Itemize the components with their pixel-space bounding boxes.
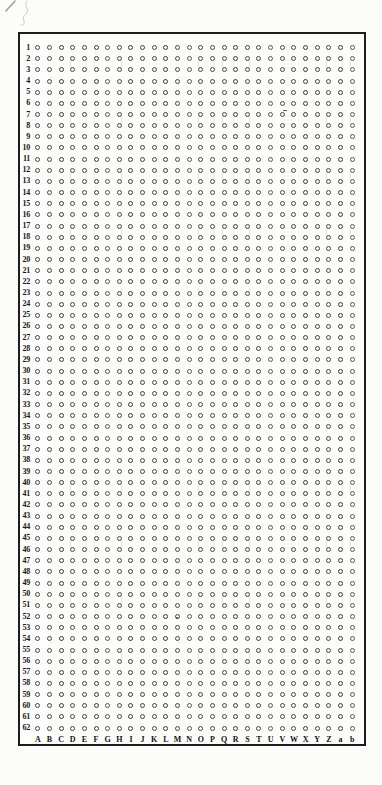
grid-dot [140, 636, 145, 641]
dot-cell [32, 525, 44, 530]
dot-row [32, 179, 358, 184]
dot-cell [346, 246, 358, 251]
dot-cell [113, 313, 125, 318]
dot-cell [160, 625, 172, 630]
grid-dot [128, 168, 133, 173]
dot-cell [90, 346, 102, 351]
grid-row: 51 [20, 600, 364, 611]
dot-cell [125, 391, 137, 396]
grid-dot [47, 246, 52, 251]
grid-dot [291, 391, 296, 396]
grid-dot [82, 469, 87, 474]
grid-dot [291, 302, 296, 307]
grid-dot [245, 67, 250, 72]
grid-dot [233, 313, 238, 318]
dot-cell [253, 246, 265, 251]
grid-dot [128, 636, 133, 641]
dot-cell [230, 491, 242, 496]
grid-dot [303, 369, 308, 374]
grid-dot [47, 391, 52, 396]
grid-dot [280, 134, 285, 139]
grid-dot [128, 558, 133, 563]
dot-cell [323, 157, 335, 162]
dot-cell [230, 558, 242, 563]
dot-cell [160, 67, 172, 72]
grid-dot [268, 346, 273, 351]
grid-dot [35, 726, 40, 731]
grid-dot [128, 346, 133, 351]
grid-dot [315, 369, 320, 374]
grid-dot [245, 592, 250, 597]
grid-dot [140, 335, 145, 340]
dot-cell [67, 480, 79, 485]
dot-cell [172, 436, 184, 441]
dot-cell [276, 458, 288, 463]
dot-cell [218, 246, 230, 251]
dot-cell [311, 480, 323, 485]
grid-dot [128, 246, 133, 251]
grid-dot [163, 558, 168, 563]
grid-dot [94, 581, 99, 586]
dot-cell [207, 469, 219, 474]
dot-cell [183, 145, 195, 150]
dot-cell [207, 703, 219, 708]
dot-cell [67, 424, 79, 429]
dot-cell [346, 168, 358, 173]
grid-dot [326, 681, 331, 686]
dot-cell [148, 603, 160, 608]
dot-cell [148, 212, 160, 217]
dot-cell [160, 703, 172, 708]
grid-dot [326, 726, 331, 731]
grid-dot [268, 291, 273, 296]
dot-cell [335, 714, 347, 719]
grid-dot [222, 268, 227, 273]
grid-dot [315, 581, 320, 586]
grid-dot [350, 145, 355, 150]
grid-dot [163, 313, 168, 318]
grid-dot [326, 145, 331, 150]
grid-dot [59, 402, 64, 407]
grid-dot [140, 436, 145, 441]
dot-cell [218, 625, 230, 630]
grid-dot [117, 636, 122, 641]
dot-cell [125, 235, 137, 240]
grid-dot [303, 302, 308, 307]
dot-cell [79, 402, 91, 407]
grid-dot [82, 581, 87, 586]
grid-dot [326, 90, 331, 95]
grid-dot [94, 525, 99, 530]
dot-cell [335, 469, 347, 474]
grid-dot [140, 179, 145, 184]
grid-dot [140, 592, 145, 597]
grid-dot [175, 391, 180, 396]
grid-dot [268, 380, 273, 385]
dot-cell [230, 90, 242, 95]
grid-dot [326, 391, 331, 396]
grid-dot [152, 436, 157, 441]
dot-cell [55, 480, 67, 485]
grid-dot [140, 581, 145, 586]
grid-dot [268, 179, 273, 184]
dot-cell [113, 201, 125, 206]
grid-dot [256, 380, 261, 385]
grid-dot [245, 190, 250, 195]
dot-cell [311, 569, 323, 574]
dot-cell [44, 179, 56, 184]
dot-cell [276, 90, 288, 95]
dot-cell [32, 692, 44, 697]
grid-dot [70, 581, 75, 586]
grid-dot [303, 681, 308, 686]
dot-cell [230, 726, 242, 731]
dot-row [32, 324, 358, 329]
grid-dot [350, 480, 355, 485]
dot-cell [195, 56, 207, 61]
dot-cell [207, 714, 219, 719]
dot-cell [276, 179, 288, 184]
dot-cell [172, 703, 184, 708]
grid-dot [187, 714, 192, 719]
grid-dot [117, 67, 122, 72]
grid-dot [222, 313, 227, 318]
dot-cell [335, 235, 347, 240]
grid-dot [268, 581, 273, 586]
grid-dot [59, 659, 64, 664]
